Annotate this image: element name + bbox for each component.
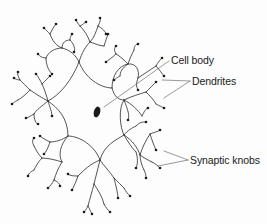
dendrite-branches bbox=[12, 18, 164, 214]
leader-synaptic-1 bbox=[164, 151, 188, 160]
leader-lines bbox=[104, 61, 190, 166]
nucleus bbox=[92, 106, 101, 118]
label-synaptic-knobs: Synaptic knobs bbox=[190, 154, 260, 166]
leader-dendrite-1 bbox=[162, 80, 190, 81]
neuron-illustration bbox=[0, 0, 267, 224]
leader-dendrite-2 bbox=[164, 81, 190, 98]
label-dendrites: Dendrites bbox=[192, 75, 236, 87]
leader-synaptic-2 bbox=[158, 160, 188, 166]
neuron-diagram: Cell body Dendrites Synaptic knobs bbox=[0, 0, 267, 224]
label-cell-body: Cell body bbox=[171, 54, 214, 66]
